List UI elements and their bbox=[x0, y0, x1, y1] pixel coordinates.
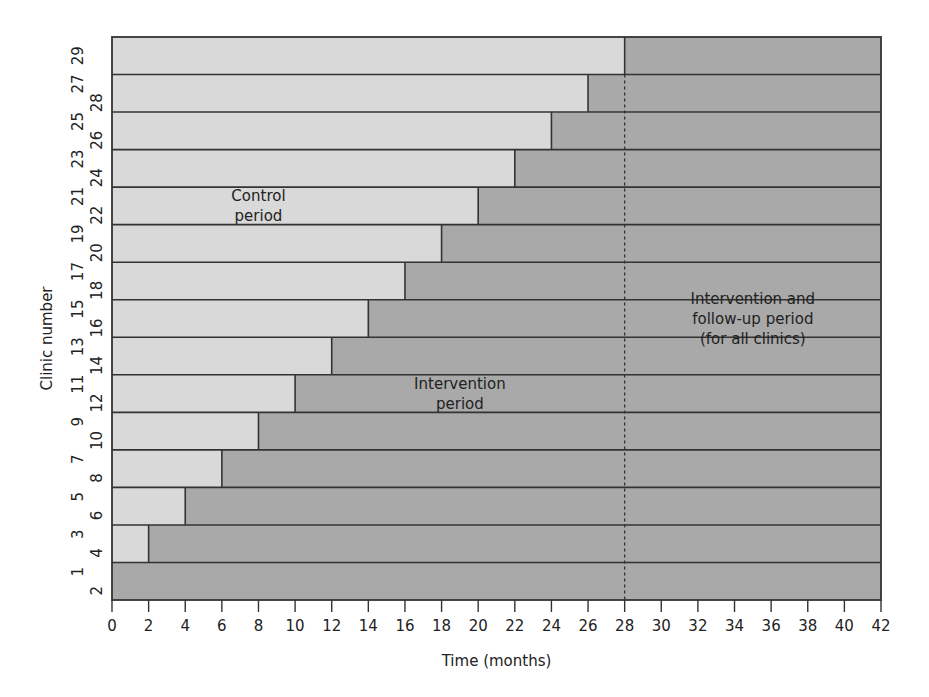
y-tick-label: 8 bbox=[88, 473, 106, 483]
y-tick-label: 6 bbox=[88, 511, 106, 521]
stepped-wedge-chart: 024681012141618202224262830323436384042 … bbox=[0, 0, 929, 697]
intervention-segment bbox=[625, 37, 881, 75]
x-tick-label: 22 bbox=[505, 617, 524, 635]
intervention-segment bbox=[222, 450, 881, 488]
x-tick-label: 20 bbox=[469, 617, 488, 635]
control-segment bbox=[112, 487, 185, 525]
y-tick-label: 4 bbox=[88, 548, 106, 558]
y-tick-label: 27 bbox=[69, 74, 87, 93]
bar-row bbox=[112, 187, 881, 225]
y-tick-label: 10 bbox=[88, 431, 106, 450]
x-tick-label: 14 bbox=[359, 617, 378, 635]
annotation-text: period bbox=[436, 395, 484, 413]
bar-row bbox=[112, 37, 881, 75]
bar-row bbox=[112, 112, 881, 150]
y-tick-label: 1 bbox=[69, 567, 87, 577]
y-tick-label: 25 bbox=[69, 112, 87, 131]
x-tick-label: 6 bbox=[217, 617, 227, 635]
control-segment bbox=[112, 300, 368, 338]
y-tick-label: 13 bbox=[69, 337, 87, 356]
annotation-text: period bbox=[235, 207, 283, 225]
y-tick-label: 2 bbox=[88, 586, 106, 596]
control-segment bbox=[112, 375, 295, 413]
bar-row bbox=[112, 487, 881, 525]
x-tick-label: 36 bbox=[762, 617, 781, 635]
x-tick-label: 12 bbox=[322, 617, 341, 635]
y-tick-label: 18 bbox=[88, 281, 106, 300]
y-tick-label: 16 bbox=[88, 318, 106, 337]
control-segment bbox=[112, 450, 222, 488]
control-segment bbox=[112, 262, 405, 300]
y-tick-label: 12 bbox=[88, 393, 106, 412]
intervention-segment bbox=[442, 225, 881, 263]
x-tick-label: 30 bbox=[652, 617, 671, 635]
control-segment bbox=[112, 337, 332, 375]
bar-row bbox=[112, 75, 881, 113]
y-tick-label: 21 bbox=[69, 187, 87, 206]
intervention-segment bbox=[478, 187, 881, 225]
y-axis: 2927282526232421221920171815161314111291… bbox=[69, 46, 106, 595]
x-tick-label: 10 bbox=[286, 617, 305, 635]
y-tick-label: 26 bbox=[88, 131, 106, 150]
x-tick-label: 26 bbox=[579, 617, 598, 635]
y-tick-label: 14 bbox=[88, 356, 106, 375]
x-tick-label: 34 bbox=[725, 617, 744, 635]
x-axis-title: Time (months) bbox=[441, 652, 552, 670]
x-tick-label: 8 bbox=[254, 617, 264, 635]
bar-row bbox=[112, 412, 881, 450]
y-tick-label: 7 bbox=[69, 454, 87, 464]
y-tick-label: 24 bbox=[88, 168, 106, 187]
intervention-segment bbox=[112, 562, 881, 600]
x-tick-label: 2 bbox=[144, 617, 154, 635]
y-tick-label: 17 bbox=[69, 262, 87, 281]
x-tick-label: 40 bbox=[835, 617, 854, 635]
x-tick-label: 32 bbox=[688, 617, 707, 635]
annotation-text: Control bbox=[231, 187, 285, 205]
annotation-text: Intervention bbox=[414, 375, 506, 393]
annotation-text: follow-up period bbox=[692, 310, 813, 328]
control-segment bbox=[112, 525, 149, 563]
x-tick-label: 16 bbox=[395, 617, 414, 635]
x-tick-label: 38 bbox=[798, 617, 817, 635]
y-tick-label: 15 bbox=[69, 300, 87, 319]
y-tick-label: 22 bbox=[88, 206, 106, 225]
intervention-segment bbox=[551, 112, 881, 150]
annotation-text: Intervention and bbox=[691, 290, 816, 308]
intervention-segment bbox=[295, 375, 881, 413]
y-tick-label: 5 bbox=[69, 492, 87, 502]
control-segment bbox=[112, 225, 442, 263]
x-tick-label: 42 bbox=[871, 617, 890, 635]
bar-row bbox=[112, 225, 881, 263]
y-tick-label: 9 bbox=[69, 417, 87, 427]
control-segment bbox=[112, 75, 588, 113]
intervention-segment bbox=[258, 412, 881, 450]
control-segment bbox=[112, 112, 551, 150]
x-tick-label: 28 bbox=[615, 617, 634, 635]
x-tick-label: 18 bbox=[432, 617, 451, 635]
control-segment bbox=[112, 187, 478, 225]
x-axis: 024681012141618202224262830323436384042 bbox=[107, 600, 890, 635]
intervention-segment bbox=[588, 75, 881, 113]
bar-row bbox=[112, 525, 881, 563]
y-axis-title: Clinic number bbox=[38, 286, 56, 391]
intervention-segment bbox=[149, 525, 881, 563]
x-tick-label: 24 bbox=[542, 617, 561, 635]
x-tick-label: 4 bbox=[180, 617, 190, 635]
control-segment bbox=[112, 150, 515, 188]
y-tick-label: 29 bbox=[69, 46, 87, 65]
y-tick-label: 3 bbox=[69, 530, 87, 540]
control-segment bbox=[112, 37, 625, 75]
intervention-segment bbox=[515, 150, 881, 188]
intervention-segment bbox=[185, 487, 881, 525]
y-tick-label: 23 bbox=[69, 149, 87, 168]
bar-row bbox=[112, 450, 881, 488]
y-tick-label: 19 bbox=[69, 225, 87, 244]
y-tick-label: 28 bbox=[88, 93, 106, 112]
bar-row bbox=[112, 150, 881, 188]
annotation-text: (for all clinics) bbox=[700, 330, 806, 348]
control-segment bbox=[112, 412, 258, 450]
bar-row bbox=[112, 562, 881, 600]
y-tick-label: 20 bbox=[88, 243, 106, 262]
x-tick-label: 0 bbox=[107, 617, 117, 635]
y-tick-label: 11 bbox=[69, 375, 87, 394]
